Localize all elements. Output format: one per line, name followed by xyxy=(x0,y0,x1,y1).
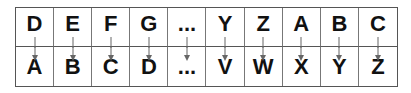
source-letter: Z xyxy=(256,11,269,37)
source-letter-cell: D xyxy=(16,8,54,47)
target-letter-cell: V xyxy=(206,47,244,86)
target-letter-cell: X xyxy=(283,47,321,86)
mapping-table: DEFG...YZABCABCD...VWXYZ xyxy=(15,7,398,87)
target-letter-cell: A xyxy=(16,47,54,86)
source-letter: B xyxy=(331,11,347,37)
target-letter-cell: ... xyxy=(168,47,206,86)
source-letter: ... xyxy=(178,11,196,37)
source-letter-cell: Y xyxy=(206,8,244,47)
arrowhead-icon xyxy=(260,55,266,61)
target-letter-cell: Z xyxy=(359,47,397,86)
target-letter-cell: C xyxy=(92,47,130,86)
source-letter-cell: C xyxy=(359,8,397,47)
source-letter: A xyxy=(293,11,309,37)
arrowhead-icon xyxy=(32,55,38,61)
source-letter: Y xyxy=(218,11,233,37)
source-letter: D xyxy=(27,11,43,37)
arrowhead-icon xyxy=(298,55,304,61)
arrowhead-icon xyxy=(184,55,190,61)
source-letter-cell: E xyxy=(54,8,92,47)
target-letter-cell: B xyxy=(54,47,92,86)
target-letter-cell: D xyxy=(130,47,168,86)
source-letter: C xyxy=(370,11,386,37)
source-letter-cell: B xyxy=(321,8,359,47)
target-letter-cell: W xyxy=(245,47,283,86)
source-letter-cell: Z xyxy=(245,8,283,47)
arrowhead-icon xyxy=(146,55,152,61)
arrowhead-icon xyxy=(70,55,76,61)
arrowhead-icon xyxy=(108,55,114,61)
source-letter-cell: G xyxy=(130,8,168,47)
arrowhead-icon xyxy=(222,55,228,61)
source-letter-cell: F xyxy=(92,8,130,47)
source-letter-cell: ... xyxy=(168,8,206,47)
arrowhead-icon xyxy=(375,55,381,61)
source-letter: E xyxy=(65,11,80,37)
source-letter: F xyxy=(104,11,117,37)
target-letter-cell: Y xyxy=(321,47,359,86)
source-letter-cell: A xyxy=(283,8,321,47)
arrowhead-icon xyxy=(336,55,342,61)
source-letter: G xyxy=(140,11,157,37)
